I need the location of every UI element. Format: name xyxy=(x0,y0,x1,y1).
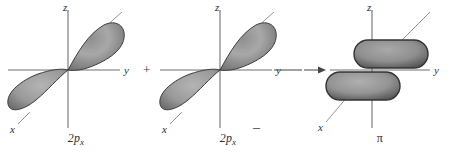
z-axis-label: z xyxy=(214,1,220,13)
caption-left-orbital: 2px xyxy=(0,131,152,147)
caption-left-sub: x xyxy=(80,137,84,147)
caption-right-sub: x xyxy=(232,137,236,147)
reaction-arrow-head xyxy=(318,67,326,74)
orbital-lobe-upper xyxy=(220,23,276,71)
caption-pi-main: π xyxy=(377,131,383,145)
caption-right-orbital: 2px xyxy=(152,131,304,147)
x-axis-leader-lower xyxy=(18,112,30,124)
x-axis-leader-upper xyxy=(400,12,430,42)
orbital-lobe-lower xyxy=(8,69,68,110)
caption-right-main: 2p xyxy=(220,131,232,145)
pi-orbital-formation-figure: z y x xyxy=(0,0,456,160)
caption-left-main: 2p xyxy=(68,131,80,145)
pi-lobe-upper xyxy=(354,40,428,68)
orbital-lobe-upper xyxy=(68,23,124,71)
x-axis-leader-lower xyxy=(170,112,182,124)
z-axis-label: z xyxy=(366,1,372,13)
z-axis-label: z xyxy=(62,1,68,13)
y-axis-label: y xyxy=(433,64,439,76)
plus-operator: + xyxy=(143,62,150,78)
orbital-lobe-lower xyxy=(160,69,220,110)
pi-lobe-lower xyxy=(326,72,400,100)
y-axis-label: y xyxy=(123,64,129,76)
caption-pi-orbital: π xyxy=(304,131,456,146)
